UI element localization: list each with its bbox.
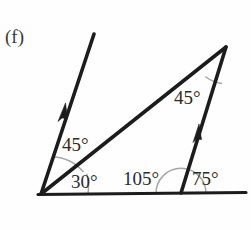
geometry-diagram: 45° 30° 105° 75° 45°: [0, 0, 251, 230]
angle-label-105: 105°: [123, 168, 159, 189]
figure-root: (f) 45° 30° 105° 75° 45°: [0, 0, 251, 230]
angle-label-45-left: 45°: [62, 134, 89, 155]
angle-label-45-apex: 45°: [174, 87, 201, 108]
baseline-segment: [38, 193, 246, 195]
angle-label-75: 75°: [192, 168, 219, 189]
angle-label-30: 30°: [71, 171, 98, 192]
left-parallel-ray: [41, 34, 94, 194]
